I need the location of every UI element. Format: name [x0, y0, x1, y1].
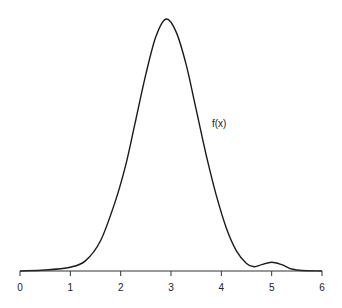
- x-axis-ticks: [20, 271, 322, 276]
- x-tick-label: 3: [168, 282, 174, 293]
- x-axis-tick-labels: 0123456: [17, 282, 325, 293]
- curve-label: f(x): [212, 118, 226, 129]
- density-plot: 0123456 f(x): [0, 0, 342, 308]
- x-tick-label: 0: [17, 282, 23, 293]
- x-tick-label: 4: [219, 282, 225, 293]
- density-curve: [20, 19, 322, 271]
- x-tick-label: 2: [118, 282, 124, 293]
- x-tick-label: 1: [68, 282, 74, 293]
- x-tick-label: 6: [319, 282, 325, 293]
- x-tick-label: 5: [269, 282, 275, 293]
